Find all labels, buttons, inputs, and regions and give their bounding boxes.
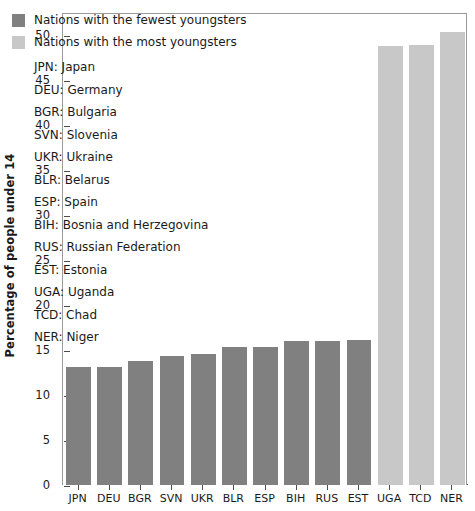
x-tick-label-uga: UGA (377, 492, 401, 505)
country-code-legend: JPN: JapanDEU: GermanyBGR: BulgariaSVN: … (34, 56, 334, 349)
x-tick-label-est: EST (348, 492, 369, 505)
x-tick-mark (265, 485, 266, 490)
y-tick-label: 5 (43, 433, 50, 447)
country-code-entry: SVN: Slovenia (34, 124, 334, 147)
y-axis-title: Percentage of people under 14 (0, 0, 20, 511)
x-tick-label-rus: RUS (315, 492, 338, 505)
bar-bih (284, 341, 309, 485)
country-code-entry: ESP: Spain (34, 191, 334, 214)
country-code-entry: EST: Estonia (34, 259, 334, 282)
country-code-entry: RUS: Russian Federation (34, 236, 334, 259)
country-code-entry: TCD: Chad (34, 304, 334, 327)
country-code-entry: UGA: Uganda (34, 281, 334, 304)
x-tick-mark (420, 485, 421, 490)
country-code-entry: JPN: Japan (34, 56, 334, 79)
country-code-entry: UKR: Ukraine (34, 146, 334, 169)
bar-ukr (191, 354, 216, 485)
x-tick-mark (233, 485, 234, 490)
x-tick-label-svn: SVN (160, 492, 183, 505)
x-tick-mark (358, 485, 359, 490)
y-tick-mark (64, 351, 70, 352)
bar-bgr (128, 361, 153, 485)
bar-deu (97, 367, 122, 485)
bar-rus (315, 341, 340, 485)
x-tick-label-blr: BLR (223, 492, 244, 505)
legend-label: Nations with the most youngsters (34, 35, 237, 49)
x-tick-label-esp: ESP (254, 492, 275, 505)
x-tick-mark (202, 485, 203, 490)
legend-swatch-icon (12, 14, 25, 27)
legend-item: Nations with the fewest youngsters (12, 9, 342, 31)
bar-esp (253, 347, 278, 485)
country-code-entry: DEU: Germany (34, 79, 334, 102)
y-tick-label: 10 (35, 388, 50, 402)
x-tick-mark (78, 485, 79, 490)
x-tick-label-bgr: BGR (128, 492, 152, 505)
legend-label: Nations with the fewest youngsters (34, 13, 247, 27)
country-code-entry: BGR: Bulgaria (34, 101, 334, 124)
country-code-entry: BIH: Bosnia and Herzegovina (34, 214, 334, 237)
bar-jpn (66, 367, 91, 485)
bar-ner (440, 32, 465, 485)
country-code-entry: NER: Niger (34, 326, 334, 349)
legend-swatch-icon (12, 36, 25, 49)
bar-svn (160, 356, 185, 485)
legend-item: Nations with the most youngsters (12, 31, 342, 53)
x-tick-label-ner: NER (440, 492, 463, 505)
bar-chart: Percentage of people under 14 0510152025… (0, 0, 475, 511)
x-tick-label-jpn: JPN (69, 492, 87, 505)
x-tick-mark (451, 485, 452, 490)
x-tick-mark (171, 485, 172, 490)
bar-blr (222, 347, 247, 485)
country-code-entry: BLR: Belarus (34, 169, 334, 192)
x-tick-mark (327, 485, 328, 490)
x-tick-mark (109, 485, 110, 490)
x-tick-label-bih: BIH (286, 492, 305, 505)
bar-tcd (409, 45, 434, 485)
x-tick-label-deu: DEU (97, 492, 120, 505)
x-tick-label-tcd: TCD (409, 492, 431, 505)
bar-uga (378, 46, 403, 485)
x-tick-label-ukr: UKR (191, 492, 214, 505)
x-tick-mark (296, 485, 297, 490)
x-tick-mark (140, 485, 141, 490)
legend: Nations with the fewest youngstersNation… (12, 9, 342, 53)
y-tick-mark (64, 486, 70, 487)
bar-est (347, 340, 372, 485)
x-tick-mark (389, 485, 390, 490)
y-tick-label: 0 (43, 478, 50, 492)
